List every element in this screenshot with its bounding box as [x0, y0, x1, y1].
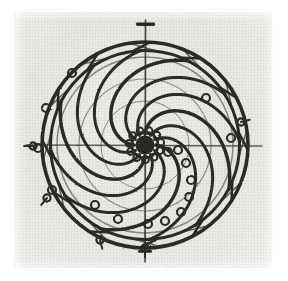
- engraving-figure: [0, 0, 288, 281]
- spiral-wheel-illustration: [0, 0, 288, 281]
- paper-grain: [14, 12, 272, 268]
